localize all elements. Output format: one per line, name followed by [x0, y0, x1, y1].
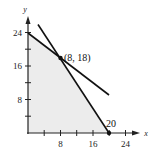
- y-tick-label-16: 16: [13, 61, 23, 71]
- y-axis-label: y: [22, 5, 27, 14]
- intersection-point: [58, 56, 62, 60]
- x-axis-label: x: [143, 129, 148, 138]
- x-tick-label-16: 16: [89, 139, 99, 149]
- y-axis-arrow-icon: [26, 16, 31, 24]
- x-intercept-label: 20: [106, 118, 116, 129]
- x-intercept-point: [107, 131, 111, 135]
- y-tick-label-8: 8: [18, 95, 23, 105]
- feasible-region-chart: 24 16 8 8 16 24 y x (8, 18) 20: [0, 0, 155, 153]
- x-tick-label-24: 24: [121, 139, 131, 149]
- y-tick-label-24: 24: [13, 28, 23, 38]
- shaded-feasible-region: [28, 33, 109, 133]
- intersection-label: (8, 18): [64, 52, 91, 64]
- x-axis-arrow-icon: [132, 131, 140, 136]
- x-tick-label-8: 8: [58, 139, 63, 149]
